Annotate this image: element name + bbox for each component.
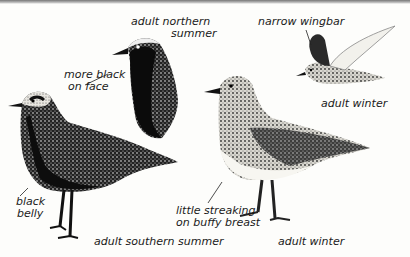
label-standing-adult-winter: adult winter [278,236,344,248]
label-streaking-2: on buffy breast [176,217,260,229]
label-adult-northern-summer-2: summer [171,28,216,40]
bird-adult-winter-flight [296,26,395,84]
label-flight-adult-winter: adult winter [321,98,387,110]
bird-adult-northern-summer [112,38,178,138]
label-black-belly-2: belly [17,208,43,220]
label-narrow-wingbar: narrow wingbar [258,16,344,28]
leader-streaking [208,182,222,203]
label-more-black-2: on face [68,81,109,93]
leader-wingbar [306,30,311,45]
label-adult-southern-summer: adult southern summer [94,236,223,248]
